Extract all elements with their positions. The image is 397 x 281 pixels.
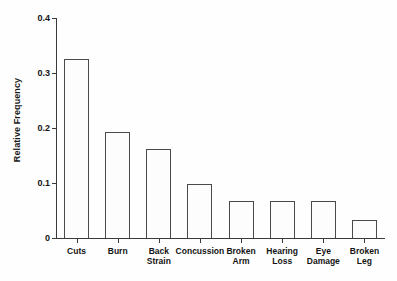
x-axis-line <box>56 238 385 239</box>
bar-chart: Relative Frequency 00.10.20.30.4 CutsBur… <box>0 0 397 281</box>
x-tick-label: Eye Damage <box>307 246 340 266</box>
x-tick-label: Broken Arm <box>226 246 255 266</box>
x-tick-label: Back Strain <box>147 246 171 266</box>
x-tick <box>77 239 78 243</box>
bar <box>229 201 254 238</box>
bar <box>311 201 336 238</box>
x-tick-label: Cuts <box>67 246 86 256</box>
y-axis-title: Relative Frequency <box>6 0 28 240</box>
x-tick <box>323 239 324 243</box>
bar <box>352 220 377 238</box>
x-tick-label: Concussion <box>176 246 225 256</box>
y-axis-title-label: Relative Frequency <box>12 78 22 162</box>
x-tick <box>159 239 160 243</box>
x-tick-label: Broken Leg <box>350 246 379 266</box>
x-tick-label: Hearing Loss <box>266 246 298 266</box>
y-tick <box>52 183 56 184</box>
plot-area: 00.10.20.30.4 CutsBurnBack StrainConcuss… <box>56 18 385 238</box>
bar <box>270 201 295 238</box>
bar <box>187 184 212 238</box>
y-tick-label: 0.1 <box>37 178 50 188</box>
x-tick-label: Burn <box>108 246 128 256</box>
y-tick-label: 0.4 <box>37 13 50 23</box>
x-tick <box>282 239 283 243</box>
x-tick <box>364 239 365 243</box>
y-tick-label: 0.3 <box>37 68 50 78</box>
x-tick <box>200 239 201 243</box>
y-axis-line <box>56 18 57 238</box>
bar <box>146 149 171 238</box>
y-tick <box>52 18 56 19</box>
y-tick-label: 0 <box>45 233 50 243</box>
y-tick <box>52 238 56 239</box>
x-tick <box>118 239 119 243</box>
bar <box>64 59 89 238</box>
bar <box>105 132 130 238</box>
y-tick-label: 0.2 <box>37 123 50 133</box>
y-tick <box>52 73 56 74</box>
y-tick <box>52 128 56 129</box>
x-tick <box>241 239 242 243</box>
